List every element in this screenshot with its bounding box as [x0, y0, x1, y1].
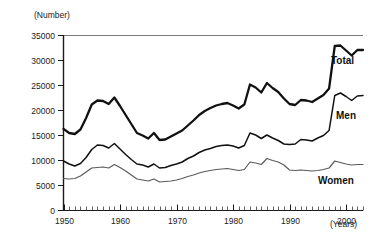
y-tick-label: 15000 — [31, 131, 55, 141]
line-chart-figure: (Number) 35000 30000 25000 20000 15000 1… — [0, 0, 385, 246]
y-axis-unit-label: (Number) — [34, 10, 70, 20]
series-label-men: Men — [336, 110, 356, 121]
series-label-total: Total — [331, 55, 354, 66]
series-line-total — [64, 46, 364, 141]
series-label-women: Women — [318, 175, 354, 186]
y-tick-label: 25000 — [31, 81, 55, 91]
y-tick-label: 30000 — [31, 56, 55, 66]
x-axis-tick-labels: 195019601970198019902000 — [55, 216, 356, 226]
x-tick-label: 1990 — [281, 216, 300, 226]
chart-canvas: (Number) 35000 30000 25000 20000 15000 1… — [0, 0, 385, 246]
y-tick-label: 35000 — [31, 31, 55, 41]
y-tick-label: 10000 — [31, 156, 55, 166]
x-tick-label: 1970 — [168, 216, 187, 226]
x-tick-label: 1950 — [55, 216, 74, 226]
x-tick-label: 1960 — [111, 216, 130, 226]
y-tick-label: 0 — [50, 206, 55, 216]
x-tick-label: 1980 — [224, 216, 243, 226]
y-axis-ticks — [58, 36, 63, 211]
y-axis-tick-labels: 35000 30000 25000 20000 15000 10000 5000… — [31, 31, 55, 216]
y-tick-label: 20000 — [31, 106, 55, 116]
x-axis-unit-label: (Years) — [330, 219, 357, 229]
y-tick-label: 5000 — [36, 181, 55, 191]
